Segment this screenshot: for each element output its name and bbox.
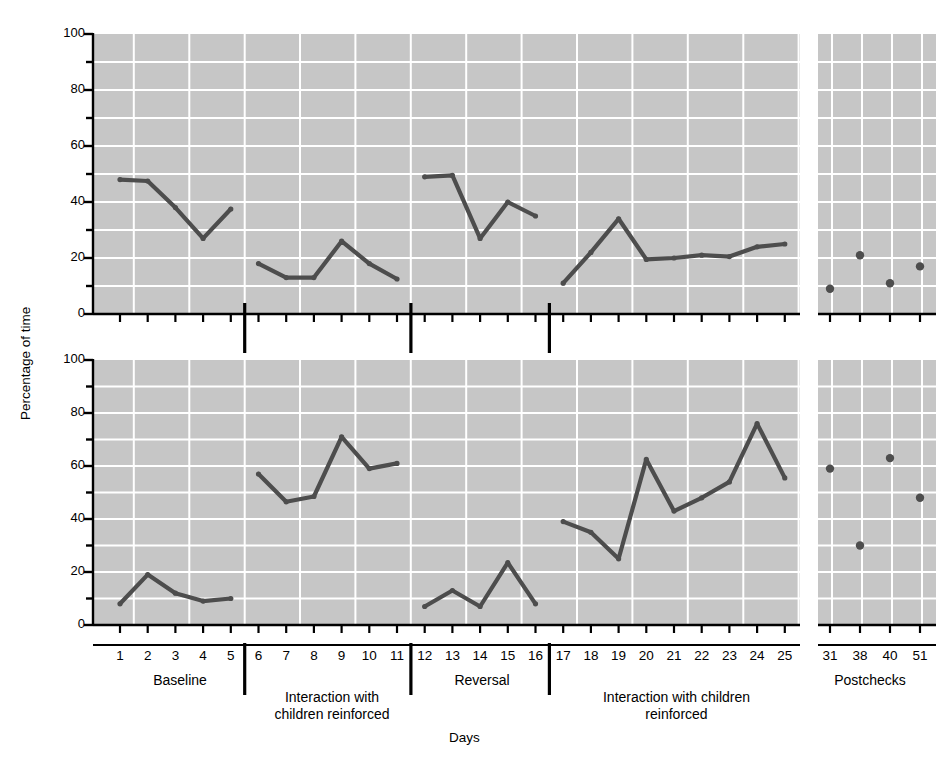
data-point bbox=[284, 275, 289, 280]
data-point bbox=[505, 199, 510, 204]
data-point bbox=[201, 599, 206, 604]
x-tick-label-postcheck: 38 bbox=[846, 648, 874, 663]
data-point bbox=[671, 255, 676, 260]
x-tick-label-day: 10 bbox=[355, 648, 383, 663]
x-tick-label-postcheck: 31 bbox=[816, 648, 844, 663]
phase-label-postchecks: Postchecks bbox=[800, 672, 940, 689]
data-point bbox=[450, 173, 455, 178]
data-line bbox=[425, 563, 536, 607]
data-point bbox=[782, 241, 787, 246]
data-point bbox=[886, 279, 894, 287]
x-tick-label-day: 3 bbox=[161, 648, 189, 663]
x-tick-label-day: 18 bbox=[577, 648, 605, 663]
data-line bbox=[563, 424, 785, 559]
data-point bbox=[644, 257, 649, 262]
data-point bbox=[367, 466, 372, 471]
y-tick-label: 0 bbox=[40, 616, 85, 631]
data-point bbox=[478, 604, 483, 609]
data-point bbox=[561, 519, 566, 524]
data-point bbox=[699, 253, 704, 258]
data-point bbox=[422, 174, 427, 179]
x-tick-label-day: 6 bbox=[245, 648, 273, 663]
panel-title-children: With children bbox=[118, 375, 202, 391]
x-tick-label-day: 25 bbox=[771, 648, 799, 663]
plot-area-children-postchecks bbox=[818, 360, 936, 625]
plot-area-children bbox=[93, 360, 800, 625]
data-point bbox=[616, 556, 621, 561]
data-point bbox=[478, 236, 483, 241]
y-tick-label: 0 bbox=[40, 305, 85, 320]
data-line bbox=[563, 219, 785, 283]
x-tick-label-day: 20 bbox=[632, 648, 660, 663]
x-tick-label-postcheck: 40 bbox=[876, 648, 904, 663]
y-tick-label: 60 bbox=[40, 457, 85, 472]
data-point bbox=[256, 471, 261, 476]
data-point bbox=[856, 541, 864, 549]
series-group-adults bbox=[117, 173, 924, 293]
data-point bbox=[886, 454, 894, 462]
data-point bbox=[145, 572, 150, 577]
phase-label-interaction-2: Interaction with children reinforced bbox=[554, 672, 799, 723]
data-line bbox=[425, 175, 536, 238]
data-point bbox=[422, 604, 427, 609]
data-point bbox=[644, 457, 649, 462]
chart-figure: Percentage of time Days With adults With… bbox=[0, 0, 950, 765]
x-tick-label-day: 15 bbox=[494, 648, 522, 663]
data-point bbox=[394, 461, 399, 466]
data-point bbox=[588, 250, 593, 255]
data-point bbox=[339, 239, 344, 244]
series-group-children bbox=[117, 421, 924, 609]
y-tick-label: 80 bbox=[40, 404, 85, 419]
x-tick-label-day: 2 bbox=[134, 648, 162, 663]
y-axis-title: Percentage of time bbox=[18, 307, 33, 420]
x-axis-title: Days bbox=[449, 730, 480, 745]
data-point bbox=[856, 251, 864, 259]
data-point bbox=[782, 475, 787, 480]
x-tick-label-day: 22 bbox=[688, 648, 716, 663]
data-point bbox=[173, 591, 178, 596]
data-point bbox=[916, 262, 924, 270]
y-tick-label: 80 bbox=[40, 81, 85, 96]
x-tick-label-day: 7 bbox=[272, 648, 300, 663]
y-tick-label: 60 bbox=[40, 137, 85, 152]
data-point bbox=[394, 276, 399, 281]
data-line bbox=[120, 575, 231, 604]
data-point bbox=[117, 601, 122, 606]
data-point bbox=[201, 236, 206, 241]
data-point bbox=[173, 205, 178, 210]
x-tick-label-postcheck: 51 bbox=[906, 648, 934, 663]
x-tick-label-day: 5 bbox=[217, 648, 245, 663]
axes-adults bbox=[84, 33, 936, 322]
data-point bbox=[367, 261, 372, 266]
x-tick-label-day: 16 bbox=[522, 648, 550, 663]
data-point bbox=[826, 285, 834, 293]
data-point bbox=[916, 494, 924, 502]
x-tick-label-day: 14 bbox=[466, 648, 494, 663]
data-point bbox=[727, 254, 732, 259]
x-tick-label-day: 17 bbox=[549, 648, 577, 663]
data-point bbox=[505, 560, 510, 565]
data-line bbox=[120, 180, 231, 239]
data-line bbox=[259, 241, 398, 279]
phase-label-reversal: Reversal bbox=[412, 672, 552, 689]
phase-label-text: Reversal bbox=[454, 672, 509, 688]
plot-area-adults-postchecks bbox=[818, 34, 936, 314]
x-tick-label-day: 4 bbox=[189, 648, 217, 663]
phase-label-text: Interaction with children reinforced bbox=[274, 689, 389, 722]
x-tick-label-day: 21 bbox=[660, 648, 688, 663]
phase-label-text: Postchecks bbox=[834, 672, 906, 688]
y-tick-label: 100 bbox=[40, 25, 85, 40]
x-tick-label-day: 23 bbox=[715, 648, 743, 663]
data-point bbox=[588, 530, 593, 535]
phase-label-text: Interaction with children reinforced bbox=[603, 689, 750, 722]
data-point bbox=[755, 421, 760, 426]
data-line bbox=[259, 437, 398, 502]
data-point bbox=[616, 216, 621, 221]
phase-label-baseline: Baseline bbox=[110, 672, 250, 689]
data-point bbox=[145, 178, 150, 183]
y-tick-label: 40 bbox=[40, 510, 85, 525]
data-point bbox=[727, 479, 732, 484]
data-point bbox=[311, 275, 316, 280]
data-point bbox=[228, 206, 233, 211]
data-point bbox=[826, 464, 834, 472]
